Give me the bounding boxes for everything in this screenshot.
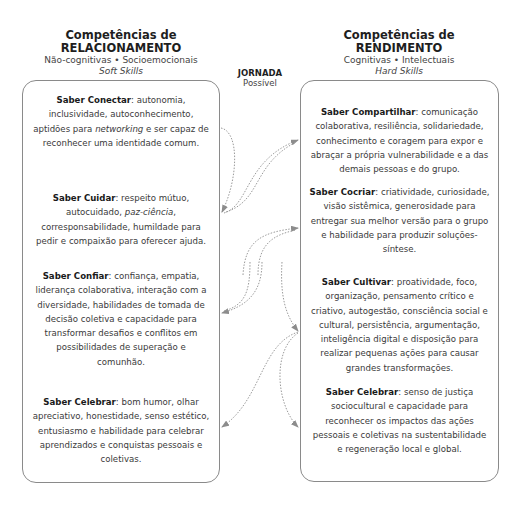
arrow-cultivar-to-celebrar-left xyxy=(222,332,298,427)
arrow-cultivar-to-celebrar-right xyxy=(280,333,298,427)
arrow-to-cocriar xyxy=(243,228,298,275)
arrow-conectar-to-cuidar xyxy=(221,128,235,212)
arrow-cocriar-to-confiar xyxy=(222,262,262,313)
arrow-cuidar-to-compartilhar-2 xyxy=(226,142,296,212)
arrow-to-cultivar xyxy=(282,262,298,331)
arrow-to-cocriar-2 xyxy=(258,230,296,275)
arrow-cocriar-to-confiar-2 xyxy=(224,262,250,311)
journey-arrows xyxy=(0,0,514,506)
